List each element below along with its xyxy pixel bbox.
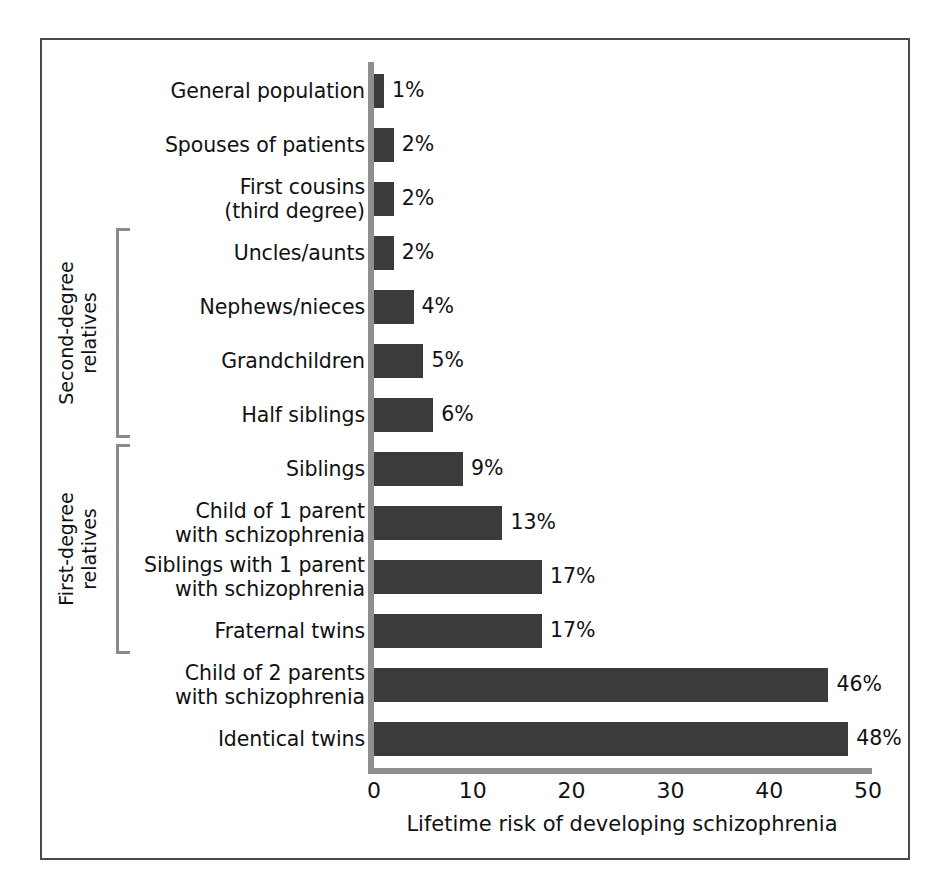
figure-frame bbox=[40, 38, 910, 860]
